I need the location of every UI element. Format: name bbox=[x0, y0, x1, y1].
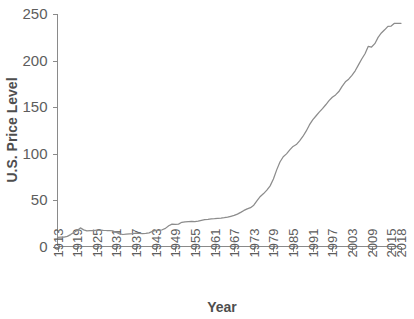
x-tick-label: 1949 bbox=[168, 229, 183, 258]
chart-canvas: 050100150200250 U.S. Price Level 1913191… bbox=[0, 0, 414, 319]
x-tick-label: 1985 bbox=[286, 229, 301, 258]
x-tick-label: 1979 bbox=[266, 229, 281, 258]
y-tick-labels: 050100150200250 bbox=[22, 5, 47, 255]
x-tick-label: 2018 bbox=[394, 229, 409, 258]
x-tick-label: 1991 bbox=[306, 229, 321, 258]
x-tick-label: 1943 bbox=[149, 229, 164, 258]
x-tick-labels: 1913191919251931193719431949195519611967… bbox=[51, 229, 410, 258]
y-axis-title: U.S. Price Level bbox=[4, 77, 20, 182]
x-tick-label: 2009 bbox=[365, 229, 380, 258]
y-tick-label: 200 bbox=[22, 52, 47, 69]
x-axis: 1913191919251931193719431949195519611967… bbox=[51, 229, 410, 315]
y-axis: 050100150200250 U.S. Price Level bbox=[4, 5, 58, 255]
x-axis-title: Year bbox=[207, 299, 237, 315]
x-tick-label: 1913 bbox=[51, 229, 66, 258]
y-tick-label: 0 bbox=[39, 238, 47, 255]
x-tick-label: 1997 bbox=[325, 229, 340, 258]
y-tick-label: 250 bbox=[22, 5, 47, 22]
y-tick-marks bbox=[53, 15, 58, 248]
price-level-line bbox=[58, 23, 402, 237]
price-level-chart: 050100150200250 U.S. Price Level 1913191… bbox=[0, 0, 414, 319]
y-tick-label: 100 bbox=[22, 145, 47, 162]
x-tick-label: 1925 bbox=[90, 229, 105, 258]
x-tick-label: 2003 bbox=[345, 229, 360, 258]
series-group bbox=[58, 23, 402, 237]
x-tick-label: 1967 bbox=[227, 229, 242, 258]
y-tick-label: 150 bbox=[22, 98, 47, 115]
y-tick-label: 50 bbox=[31, 191, 48, 208]
x-tick-label: 1973 bbox=[247, 229, 262, 258]
x-tick-label: 1961 bbox=[208, 229, 223, 258]
x-tick-label: 1955 bbox=[188, 229, 203, 258]
